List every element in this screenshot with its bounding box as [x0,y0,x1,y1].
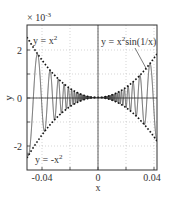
x-tick-neg004: -0.04 [32,172,53,183]
y-tick-neg2: -2 [14,141,22,152]
y-tick-0: 0 [17,93,22,104]
x-tick-004: 0.04 [143,172,161,183]
annotation-upper-envelope: y = x2 [33,34,58,46]
chart: × 10-3 2 0 -2 y -0.04 0 0.04 x y = x2 y … [0,0,176,199]
annotation-lower-envelope: y = -x2 [35,153,63,165]
annotation-function: y = x2sin(1/x) [101,35,156,48]
annotation-arrow [135,48,147,70]
y-multiplier: × 10-3 [27,11,51,23]
y-axis-label: y [2,95,14,101]
y-tick-2: 2 [17,45,22,56]
series-x2-sin-inv-x [27,54,157,156]
x-axis-label: x [96,182,101,193]
